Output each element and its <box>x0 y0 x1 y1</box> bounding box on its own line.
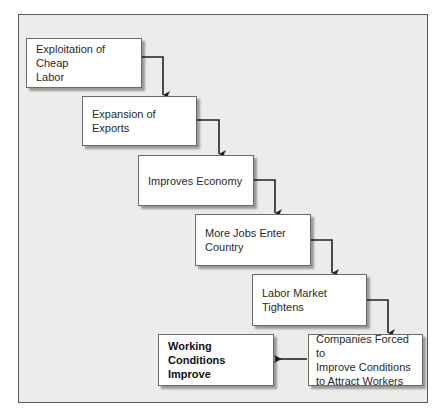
node-text-line: to Attract Workers <box>316 374 415 388</box>
node-more-jobs-enter-country: More Jobs Enter Country <box>195 214 311 266</box>
node-text-line: Exploitation of Cheap <box>36 42 132 70</box>
node-text-line: Labor Market <box>262 286 327 300</box>
node-companies-forced-to-improve: Companies Forced to Improve Conditions t… <box>308 334 423 386</box>
node-text-line: Improve <box>168 367 225 381</box>
node-expansion-of-exports: Expansion of Exports <box>82 96 197 146</box>
arrow-n2-n3 <box>197 120 219 154</box>
node-text-line: Improves Economy <box>148 174 242 188</box>
arrow-n5-n6 <box>367 300 388 333</box>
node-text-line: Exports <box>92 121 156 135</box>
node-text-line: Conditions <box>168 353 225 367</box>
node-improves-economy: Improves Economy <box>138 155 254 206</box>
node-text-line: Companies Forced to <box>316 332 415 360</box>
node-text-line: Improve Conditions <box>316 360 415 374</box>
arrow-n3-n4 <box>254 180 275 213</box>
node-text-line: Tightens <box>262 300 327 314</box>
node-text-line: More Jobs Enter <box>205 226 286 240</box>
node-exploitation-of-cheap-labor: Exploitation of Cheap Labor <box>26 38 142 88</box>
node-labor-market-tightens: Labor Market Tightens <box>252 274 367 326</box>
node-text-line: Expansion of <box>92 107 156 121</box>
arrow-n4-n5 <box>311 240 332 273</box>
arrow-n1-n2 <box>142 57 163 95</box>
node-working-conditions-improve: Working Conditions Improve <box>158 334 274 386</box>
node-text-line: Labor <box>36 70 132 84</box>
node-text-line: Working <box>168 339 225 353</box>
node-text-line: Country <box>205 240 286 254</box>
